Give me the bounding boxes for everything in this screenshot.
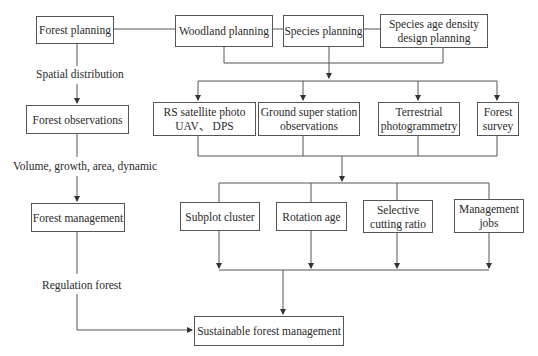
node-label: Woodland planning bbox=[179, 24, 269, 38]
node-label-line-1: Species age density bbox=[389, 17, 479, 31]
node-label-line-2: UAV、 DPS bbox=[175, 119, 233, 133]
node-forest-planning: Forest planning bbox=[36, 16, 114, 44]
node-forest-management: Forest management bbox=[31, 203, 125, 232]
node-label-line-2: cutting ratio bbox=[370, 217, 426, 231]
node-label: Species planning bbox=[284, 24, 362, 38]
node-woodland-planning: Woodland planning bbox=[175, 15, 273, 47]
node-label-line-2: jobs bbox=[479, 216, 498, 230]
node-label: Forest observations bbox=[33, 113, 123, 127]
node-label-line-1: Terrestrial bbox=[395, 105, 442, 119]
edge-label-regulation-forest: Regulation forest bbox=[42, 278, 122, 292]
node-label-line-1: Management bbox=[459, 202, 519, 216]
node-subplot-cluster: Subplot cluster bbox=[180, 202, 260, 231]
node-species-age-density: Species age density design planning bbox=[380, 14, 488, 48]
node-label-line-1: Forest bbox=[484, 105, 513, 119]
node-label-line-2: observations bbox=[280, 119, 338, 133]
node-terrestrial-photogrammetry: Terrestrial photogrammetry bbox=[378, 102, 460, 136]
node-ground-station: Ground super station observations bbox=[258, 102, 360, 136]
node-label-line-1: RS satellite photo bbox=[164, 105, 246, 119]
edge-label-volume-growth: Volume, growth, area, dynamic bbox=[13, 159, 157, 173]
node-label: Forest planning bbox=[39, 23, 111, 37]
node-species-planning: Species planning bbox=[283, 15, 364, 47]
node-label: Sustainable forest management bbox=[197, 324, 341, 338]
node-label-line-2: photogrammetry bbox=[381, 119, 458, 133]
node-label: Subplot cluster bbox=[185, 210, 254, 224]
node-forest-observations: Forest observations bbox=[26, 105, 129, 134]
connector-lines bbox=[0, 0, 538, 356]
node-forest-survey: Forest survey bbox=[477, 102, 519, 136]
node-label-line-1: Selective bbox=[377, 203, 419, 217]
node-label-line-1: Ground super station bbox=[261, 105, 357, 119]
node-selective-cutting: Selective cutting ratio bbox=[363, 200, 433, 233]
node-label: Forest management bbox=[33, 211, 123, 225]
node-rs-satellite: RS satellite photo UAV、 DPS bbox=[153, 102, 256, 136]
node-management-jobs: Management jobs bbox=[454, 199, 524, 233]
node-label-line-2: survey bbox=[483, 119, 514, 133]
node-sustainable-forest-management: Sustainable forest management bbox=[194, 316, 344, 346]
edge-label-spatial-distribution: Spatial distribution bbox=[36, 67, 124, 81]
node-label: Rotation age bbox=[282, 210, 340, 224]
node-label-line-2: design planning bbox=[397, 31, 470, 45]
node-rotation-age: Rotation age bbox=[276, 202, 347, 231]
